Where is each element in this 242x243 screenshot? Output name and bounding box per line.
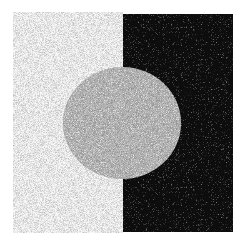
gray-noise-disc (63, 67, 181, 179)
stimulus-image (0, 0, 242, 243)
disc-noise-texture (63, 67, 181, 179)
